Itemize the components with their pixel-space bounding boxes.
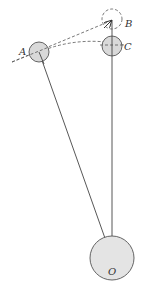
label-A: A xyxy=(18,46,26,57)
velocity-arrow xyxy=(104,21,111,28)
string-OA xyxy=(39,52,112,258)
label-B: B xyxy=(124,18,132,29)
label-C: C xyxy=(124,41,132,52)
pendulum-diagram: A B C O xyxy=(0,0,142,293)
label-O: O xyxy=(108,266,116,277)
